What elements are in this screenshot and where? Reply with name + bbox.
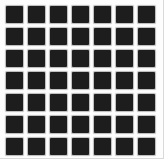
grid-square bbox=[28, 94, 45, 111]
grid-square bbox=[6, 72, 23, 89]
grid-square bbox=[94, 50, 111, 67]
grid-container bbox=[6, 6, 155, 155]
pattern-canvas: { "pattern": { "name": "hermann-grid-squ… bbox=[0, 0, 164, 159]
grid-square bbox=[50, 6, 67, 23]
grid-square bbox=[138, 138, 155, 155]
grid-square bbox=[72, 6, 89, 23]
grid-square bbox=[116, 50, 133, 67]
grid-square bbox=[50, 138, 67, 155]
grid-square bbox=[94, 28, 111, 45]
grid-square bbox=[50, 94, 67, 111]
grid-square bbox=[28, 28, 45, 45]
grid-square bbox=[28, 116, 45, 133]
grid-square bbox=[6, 6, 23, 23]
grid-square bbox=[94, 94, 111, 111]
grid-square bbox=[138, 72, 155, 89]
grid-square bbox=[28, 6, 45, 23]
grid-square bbox=[72, 50, 89, 67]
grid-square bbox=[6, 94, 23, 111]
grid-square bbox=[116, 116, 133, 133]
grid-square bbox=[94, 6, 111, 23]
grid-square bbox=[50, 28, 67, 45]
grid-square bbox=[50, 116, 67, 133]
grid-square bbox=[138, 6, 155, 23]
grid-square bbox=[6, 28, 23, 45]
grid-square bbox=[94, 72, 111, 89]
grid-square bbox=[72, 28, 89, 45]
grid-square bbox=[6, 116, 23, 133]
grid-square bbox=[72, 72, 89, 89]
grid-square bbox=[138, 28, 155, 45]
grid-square bbox=[116, 28, 133, 45]
grid-square bbox=[94, 116, 111, 133]
grid-square bbox=[50, 50, 67, 67]
grid-square bbox=[116, 72, 133, 89]
grid-square bbox=[116, 138, 133, 155]
grid-square bbox=[138, 94, 155, 111]
grid-square bbox=[138, 116, 155, 133]
grid-square bbox=[94, 138, 111, 155]
grid-square bbox=[50, 72, 67, 89]
grid-square bbox=[6, 50, 23, 67]
grid-square bbox=[6, 138, 23, 155]
grid-square bbox=[116, 94, 133, 111]
grid-square bbox=[138, 50, 155, 67]
grid-square bbox=[72, 138, 89, 155]
hermann-grid bbox=[6, 6, 155, 155]
grid-square bbox=[28, 50, 45, 67]
grid-square bbox=[28, 138, 45, 155]
grid-square bbox=[28, 72, 45, 89]
grid-square bbox=[116, 6, 133, 23]
grid-square bbox=[72, 94, 89, 111]
grid-square bbox=[72, 116, 89, 133]
